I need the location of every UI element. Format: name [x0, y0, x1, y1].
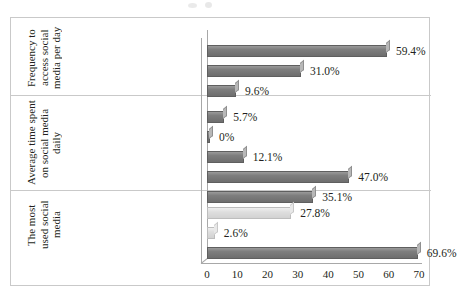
- x-axis-tick-label: 40: [323, 268, 334, 280]
- x-axis-tick-label: 0: [204, 268, 210, 280]
- group-title-frequency: Frequency to access social media per day: [25, 23, 85, 93]
- bar: [207, 247, 418, 259]
- bar-value-label: 69.6%: [427, 244, 457, 263]
- plot-front-axis: [201, 38, 202, 263]
- x-axis-tick-label: 20: [262, 268, 273, 280]
- bar-value-label: 9.6%: [245, 82, 269, 101]
- x-axis-ticks: 010203040506070: [201, 264, 422, 284]
- x-axis-tick-label: 30: [292, 268, 303, 280]
- bar: [207, 85, 236, 97]
- bar-value-label: 59.4%: [396, 42, 426, 61]
- x-axis-tick-label: 60: [383, 268, 394, 280]
- group-title-most-used-media: The most used social media: [25, 194, 85, 256]
- group-title-average-time: Average time spent on social media daily: [25, 98, 85, 188]
- x-axis-tick-label: 70: [414, 268, 425, 280]
- bar-value-label: 5.7%: [233, 108, 257, 127]
- bar: [207, 65, 301, 77]
- chart-frame: Above 6 times59.4%4 – 6 times31.0%1 – 3 …: [10, 17, 430, 286]
- bar: [207, 191, 313, 203]
- bar-value-label: 12.1%: [253, 148, 283, 167]
- bar-value-label: 27.8%: [300, 204, 330, 223]
- bar: [207, 45, 387, 57]
- bar-value-label: 2.6%: [224, 224, 248, 243]
- bar: [207, 227, 215, 239]
- bar-value-label: 31.0%: [310, 62, 340, 81]
- bar-value-label: 47.0%: [358, 168, 388, 187]
- bar-value-label: 0%: [219, 128, 234, 147]
- scan-artifact-marks: [0, 0, 440, 16]
- bar: [207, 207, 291, 219]
- x-axis-tick-label: 50: [353, 268, 364, 280]
- bar: [207, 171, 349, 183]
- bar: [207, 151, 244, 163]
- x-axis-tick-label: 10: [232, 268, 243, 280]
- bar: [207, 131, 210, 143]
- bar: [207, 111, 224, 123]
